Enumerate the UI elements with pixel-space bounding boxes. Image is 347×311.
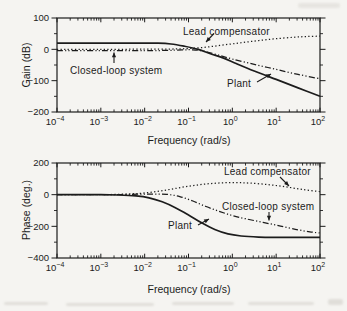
- gain-lead-compensator-label: Lead compensator: [183, 26, 270, 37]
- x-tick-label: 10−2: [133, 115, 152, 127]
- gain-axis-label: Gain (dB): [20, 43, 32, 88]
- y-tick-label: −400: [28, 252, 49, 263]
- x-tick-label: 100: [223, 261, 238, 273]
- phase-axis-label: Phase (deg.): [20, 180, 32, 240]
- gain-closed-loop-label: Closed-loop system: [70, 65, 162, 76]
- x-tick-label: 101: [267, 115, 282, 127]
- x-tick-label: 10−1: [177, 261, 196, 273]
- x-tick-label: 10−3: [90, 115, 109, 127]
- gain-plant-label: Plant: [227, 78, 251, 89]
- x-tick-label: 101: [267, 261, 282, 273]
- print-artifact: [66, 303, 154, 306]
- y-tick-label: −200: [28, 106, 49, 117]
- phase-lead-compensator-label: Lead compensator: [224, 166, 311, 177]
- x-tick-label: 10−2: [133, 261, 152, 273]
- x-tick-label: 102: [311, 261, 326, 273]
- y-tick-label: 200: [33, 157, 49, 168]
- bode-figure: 10−410−310−210−11001011021000−100−20010−…: [0, 0, 347, 311]
- print-artifact: [4, 302, 48, 305]
- phase-plant-label: Plant: [168, 220, 192, 231]
- bode-plots-svg: 10−410−310−210−11001011021000−100−20010−…: [0, 0, 347, 311]
- x-tick-label: 10−1: [177, 115, 196, 127]
- x-tick-label: 102: [311, 115, 326, 127]
- y-tick-label: 0: [44, 44, 49, 55]
- phase-frequency-axis-label: Frequency (rad/s): [148, 283, 231, 295]
- y-tick-label: 100: [33, 12, 49, 23]
- x-tick-label: 10−3: [90, 261, 109, 273]
- annotation-arrowhead: [267, 216, 271, 221]
- print-artifact: [248, 302, 314, 305]
- annotation-arrowhead: [112, 53, 116, 58]
- y-tick-label: 0: [44, 189, 49, 200]
- print-artifact: [328, 299, 343, 305]
- print-artifact: [298, 3, 340, 8]
- x-tick-label: 100: [223, 115, 238, 127]
- series-lead-compensator-curve: [57, 183, 320, 195]
- gain-frequency-axis-label: Frequency (rad/s): [148, 134, 231, 146]
- print-artifact: [172, 302, 234, 305]
- phase-closed-loop-label: Closed-loop system: [222, 201, 314, 212]
